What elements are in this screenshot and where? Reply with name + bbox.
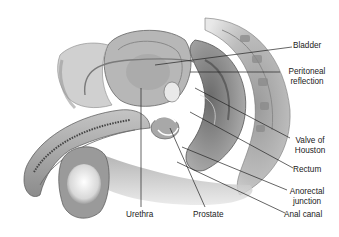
label-line: reflection bbox=[282, 77, 332, 87]
label-line: Anorectal bbox=[284, 187, 330, 197]
label-line: Peritoneal bbox=[282, 67, 332, 77]
label-peritoneal-reflection: Peritoneal reflection bbox=[282, 67, 332, 86]
label-valve-of-houston: Valve of Houston bbox=[290, 136, 330, 155]
label-prostate: Prostate bbox=[193, 210, 224, 220]
pubic-region bbox=[58, 43, 112, 108]
label-line: Valve of bbox=[290, 136, 330, 146]
label-bladder: Bladder bbox=[293, 41, 321, 51]
label-line: Houston bbox=[290, 146, 330, 156]
anatomy-figure: Bladder Peritoneal reflection Valve of H… bbox=[0, 0, 339, 237]
label-line: junction bbox=[284, 197, 330, 207]
label-rectum: Rectum bbox=[293, 165, 321, 175]
testis bbox=[59, 147, 109, 218]
label-urethra: Urethra bbox=[126, 210, 153, 220]
label-anal-canal: Anal canal bbox=[284, 210, 322, 220]
label-anorectal-junction: Anorectal junction bbox=[284, 187, 330, 206]
pelvic-floor bbox=[90, 150, 253, 205]
